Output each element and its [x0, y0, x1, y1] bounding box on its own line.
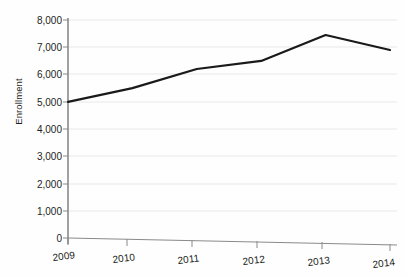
x-axis-line: [68, 238, 397, 245]
x-axis-ticks: [68, 238, 390, 251]
gridlines: [68, 20, 397, 211]
plot-area: [0, 0, 407, 278]
enrollment-series-line: [68, 35, 390, 102]
enrollment-line-chart: Enrollment 8,000 7,000 6,000 5,000 4,000…: [0, 0, 407, 278]
